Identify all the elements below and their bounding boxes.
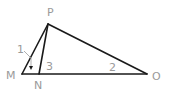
angle-label-2: 2 xyxy=(109,61,116,74)
label-o: O xyxy=(152,70,161,83)
label-n: N xyxy=(34,79,42,92)
triangle-diagram: P M N O 1 2 3 xyxy=(0,0,169,101)
label-m: M xyxy=(6,69,16,82)
angle-label-3: 3 xyxy=(46,60,53,73)
arrow-icon xyxy=(29,66,33,70)
angle-label-1: 1 xyxy=(17,43,24,56)
label-p: P xyxy=(47,6,54,19)
segment-po xyxy=(48,24,147,74)
